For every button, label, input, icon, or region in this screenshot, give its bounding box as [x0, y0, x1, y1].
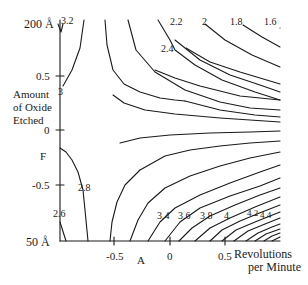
y-axis-label-line1: Amount: [13, 88, 49, 100]
contour-label-2-4: 2.4: [161, 43, 174, 54]
contour-label-1-6: 1.6: [264, 16, 277, 27]
y-top-label: 200 Å: [24, 18, 54, 30]
contour-4-4: [272, 237, 280, 241]
contour-label-2-6: 2.6: [53, 208, 66, 219]
contour-label-3: 3: [58, 86, 63, 97]
contour-2-0: [205, 24, 280, 67]
y-tick-0-5: 0.5: [36, 70, 50, 82]
x-tick-0-5: 0.5: [218, 250, 232, 262]
contour-4-1: [246, 224, 280, 241]
contour-2-2: [158, 20, 280, 100]
x-factor-label: A: [137, 254, 145, 266]
contour-2-3: [175, 40, 280, 92]
x-axis-label-line2: per Minute: [248, 261, 301, 273]
contour-1-8: [243, 25, 280, 47]
contour-2-6-left: [60, 222, 66, 241]
contour-label-4-4: 4.4: [260, 210, 271, 221]
contour-label-3-4: 3.4: [157, 210, 170, 221]
contour-3-upper: [63, 20, 84, 86]
contour-label-1-8: 1.8: [230, 16, 243, 27]
contour-label-3-8: 3.8: [200, 210, 213, 221]
contour-label-4-2: 4.2: [247, 208, 258, 219]
contour-2-1: [186, 48, 280, 84]
contour-label-4: 4: [224, 210, 229, 221]
x-axis-label-line1: Revolutions: [234, 248, 292, 260]
y-tick-0: 0: [44, 124, 50, 136]
y-axis-label-line2: of Oxide: [13, 101, 52, 113]
contour-label-3-2: 3.2: [61, 15, 74, 26]
x-tick-0: 0: [167, 250, 173, 262]
x-tick-neg-0-5: -0.5: [106, 250, 123, 262]
contour-label-2: 2: [202, 16, 207, 27]
y-axis-label-line3: Etched: [13, 114, 44, 126]
y-tick-neg-0-5: -0.5: [32, 179, 49, 191]
contour-label-2-8: 2.8: [78, 182, 91, 193]
contour-2-8-left: [60, 148, 88, 241]
contour-label-3-6: 3.6: [178, 210, 191, 221]
contour-3-0-right: [120, 131, 280, 143]
y-bottom-label: 50 Å: [26, 236, 50, 248]
y-factor-label: F: [40, 150, 46, 162]
contour-3-4: [148, 165, 280, 241]
contour-label-2-2: 2.2: [170, 16, 183, 27]
